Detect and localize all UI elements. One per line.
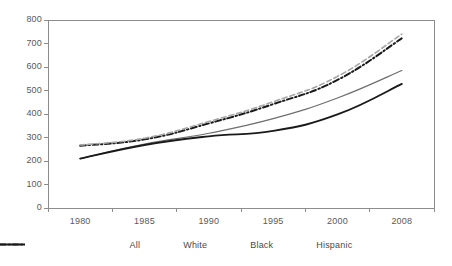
legend-key-all [100,241,125,250]
legend-label-all: All [130,240,141,250]
legend-label-hispanic: Hispanic [316,240,352,250]
x-tick-label: 1990 [177,216,241,226]
y-tick-label: 600 [6,61,42,71]
y-tick-label: 200 [6,155,42,165]
chart-canvas [0,0,452,266]
legend-label-black: Black [250,240,273,250]
series-line-white [80,34,402,145]
chart-legend: All White Black Hispanic [0,240,452,250]
series-line-hispanic [80,84,402,159]
y-tick-label: 0 [6,202,42,212]
legend-item-white: White [153,240,207,250]
x-tick-label: 1985 [112,216,176,226]
y-tick-label: 300 [6,132,42,142]
legend-item-all: All [100,240,141,250]
x-tick-label: 2008 [370,216,434,226]
x-tick-label: 1980 [48,216,112,226]
legend-key-black [220,241,245,250]
y-tick-label: 800 [6,14,42,24]
legend-label-white: White [183,240,207,250]
y-tick-label: 500 [6,85,42,95]
legend-key-white [153,241,178,250]
y-tick-label: 400 [6,108,42,118]
y-tick-label: 100 [6,179,42,189]
x-tick-label: 2000 [305,216,369,226]
legend-item-black: Black [220,240,273,250]
y-tick-label: 700 [6,38,42,48]
line-chart: 0100200300400500600700800 19801985199019… [0,0,452,266]
x-tick-label: 1995 [241,216,305,226]
legend-key-hispanic [286,241,311,250]
legend-item-hispanic: Hispanic [286,240,352,250]
